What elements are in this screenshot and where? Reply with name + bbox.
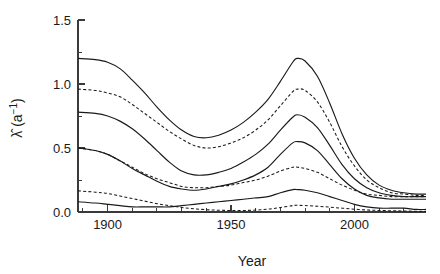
y-axis-title: λ̂ (a−1) [8, 98, 25, 137]
x-axis-tick-label: 1900 [93, 217, 122, 232]
curve-upper-inner-dashed [78, 89, 426, 196]
curve-upper-outer-solid [78, 58, 426, 194]
y-axis-tick-label: 0.0 [53, 205, 71, 220]
y-axis-title-units-open: (a [9, 114, 25, 131]
data-curves [78, 58, 426, 211]
line-chart: 190019502000 0.00.51.01.5 Year λ̂ (a−1) [0, 0, 440, 274]
y-axis-title-units-exp: −1 [8, 103, 19, 115]
curve-mid-lower-dashed [78, 148, 426, 197]
x-axis-title: Year [238, 253, 267, 269]
y-axis-tick-labels: 0.00.51.01.5 [53, 13, 71, 220]
y-axis-title-units-close: ) [9, 98, 25, 103]
y-axis-minor-ticks [78, 52, 82, 180]
svg-text:λ̂ (a−1): λ̂ (a−1) [8, 98, 25, 137]
x-axis-tick-labels: 190019502000 [93, 217, 369, 232]
x-axis-tick-label: 2000 [340, 217, 369, 232]
y-axis-tick-label: 0.5 [53, 141, 71, 156]
x-axis-tick-label: 1950 [217, 217, 246, 232]
chart-figure: 190019502000 0.00.51.01.5 Year λ̂ (a−1) [0, 0, 440, 274]
curve-mid-upper-solid [78, 112, 426, 197]
curve-low-solid [78, 189, 426, 209]
y-axis-tick-label: 1.0 [53, 77, 71, 92]
y-axis-tick-label: 1.5 [53, 13, 71, 28]
